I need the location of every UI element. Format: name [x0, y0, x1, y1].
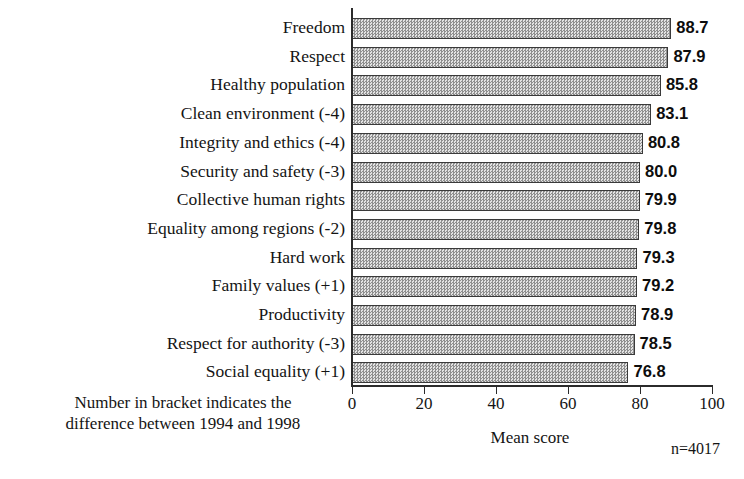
category-label: Integrity and ethics (-4): [5, 132, 345, 152]
bar-value-label: 79.2: [642, 275, 674, 296]
bar: [352, 104, 651, 125]
x-axis-line: [351, 385, 713, 387]
x-axis-tick-label: 40: [466, 394, 526, 414]
bar-value-label: 87.9: [673, 46, 705, 67]
bar-row: 80.8: [352, 133, 714, 154]
bar-row: 87.9: [352, 47, 714, 68]
bar: [352, 162, 640, 183]
bar-row: 78.9: [352, 305, 714, 326]
x-axis-tick: [568, 387, 569, 394]
bar: [352, 334, 635, 355]
footnote-line-2: difference between 1994 and 1998: [28, 413, 338, 434]
bar-value-label: 79.3: [642, 247, 674, 268]
x-axis-tick: [640, 387, 641, 394]
bar: [352, 47, 668, 68]
x-axis-tick: [352, 387, 353, 394]
category-label: Freedom: [5, 17, 345, 37]
bar-value-label: 80.0: [645, 161, 677, 182]
category-label: Productivity: [5, 304, 345, 324]
category-label: Respect: [5, 46, 345, 66]
bar-value-label: 88.7: [676, 17, 708, 38]
bar-value-label: 76.8: [633, 361, 665, 382]
bar: [352, 248, 637, 269]
x-axis-tick: [424, 387, 425, 394]
bar-value-label: 83.1: [656, 103, 688, 124]
bar-row: 80.0: [352, 162, 714, 183]
x-axis-tick-label: 60: [538, 394, 598, 414]
bar: [352, 75, 661, 96]
bar: [352, 190, 640, 211]
bar: [352, 18, 671, 39]
category-label: Social equality (+1): [5, 361, 345, 381]
bar-row: 79.8: [352, 219, 714, 240]
category-label: Equality among regions (-2): [5, 218, 345, 238]
bar-row: 79.3: [352, 248, 714, 269]
bar: [352, 133, 643, 154]
footnote-note: Number in bracket indicates the differen…: [28, 392, 338, 434]
category-label: Collective human rights: [5, 189, 345, 209]
bar-row: 76.8: [352, 362, 714, 383]
bar-value-label: 78.9: [641, 304, 673, 325]
bar: [352, 305, 636, 326]
bar-value-label: 80.8: [648, 132, 680, 153]
bar-row: 79.2: [352, 276, 714, 297]
bar-row: 78.5: [352, 334, 714, 355]
bar-row: 83.1: [352, 104, 714, 125]
category-label: Hard work: [5, 247, 345, 267]
category-label: Healthy population: [5, 74, 345, 94]
bar: [352, 362, 628, 383]
category-label: Security and safety (-3): [5, 161, 345, 181]
bar-row: 79.9: [352, 190, 714, 211]
bar: [352, 219, 639, 240]
bar-value-label: 79.9: [645, 189, 677, 210]
x-axis-tick: [712, 387, 713, 394]
footnote-line-1: Number in bracket indicates the: [28, 392, 338, 413]
sample-size-label: n=4017: [600, 440, 720, 458]
category-label: Family values (+1): [5, 275, 345, 295]
plot-area: 88.787.985.883.180.880.079.979.879.379.2…: [352, 10, 714, 386]
category-label: Respect for authority (-3): [5, 333, 345, 353]
category-label: Clean environment (-4): [5, 103, 345, 123]
x-axis-tick-label: 80: [610, 394, 670, 414]
bar-value-label: 85.8: [666, 74, 698, 95]
bar-value-label: 78.5: [640, 333, 672, 354]
x-axis-tick: [496, 387, 497, 394]
bar-value-label: 79.8: [644, 218, 676, 239]
category-label-column: FreedomRespectHealthy populationClean en…: [0, 10, 348, 386]
bar-row: 88.7: [352, 18, 714, 39]
horizontal-bar-chart: FreedomRespectHealthy populationClean en…: [0, 0, 744, 479]
bar-row: 85.8: [352, 75, 714, 96]
y-axis-line: [351, 8, 353, 387]
x-axis-tick-label: 100: [682, 394, 742, 414]
x-axis-tick-label: 20: [394, 394, 454, 414]
bar: [352, 276, 637, 297]
